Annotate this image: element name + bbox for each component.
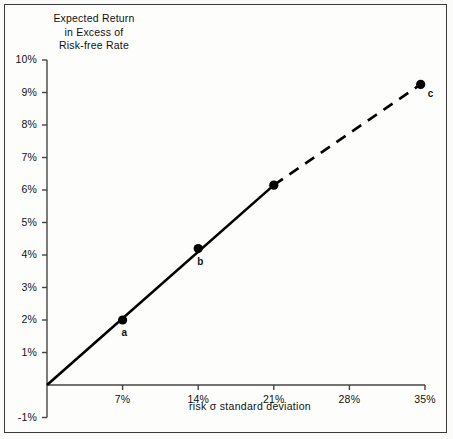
y-tick-label: 9% <box>0 86 37 98</box>
y-tick-label: -1% <box>0 411 37 423</box>
x-axis-title: risk σ standard deviation <box>120 400 380 412</box>
axes-layer <box>42 60 425 418</box>
x-tick-label: 35% <box>402 393 448 405</box>
markers-layer <box>118 80 425 325</box>
y-tick-label: 4% <box>0 248 37 260</box>
y-tick-label: 8% <box>0 118 37 130</box>
y-tick-label: 2% <box>0 313 37 325</box>
data-point-label: c <box>428 88 434 99</box>
series-line-solid <box>47 185 274 385</box>
y-tick-label: 1% <box>0 346 37 358</box>
data-point-label: a <box>122 327 128 338</box>
plot-canvas <box>0 0 453 439</box>
chart-page: Expected Return in Excess of Risk-free R… <box>0 0 453 439</box>
y-tick-label: 7% <box>0 151 37 163</box>
data-point-marker <box>194 244 203 253</box>
series-layer <box>47 84 421 385</box>
series-line-dashed <box>274 84 421 185</box>
y-tick-label: 3% <box>0 281 37 293</box>
y-tick-label: 10% <box>0 53 37 65</box>
data-point-marker <box>416 80 425 89</box>
data-point-label: b <box>197 256 203 267</box>
data-point-marker <box>118 315 127 324</box>
data-point-marker <box>269 181 278 190</box>
y-tick-label: 6% <box>0 183 37 195</box>
y-tick-label: 5% <box>0 216 37 228</box>
